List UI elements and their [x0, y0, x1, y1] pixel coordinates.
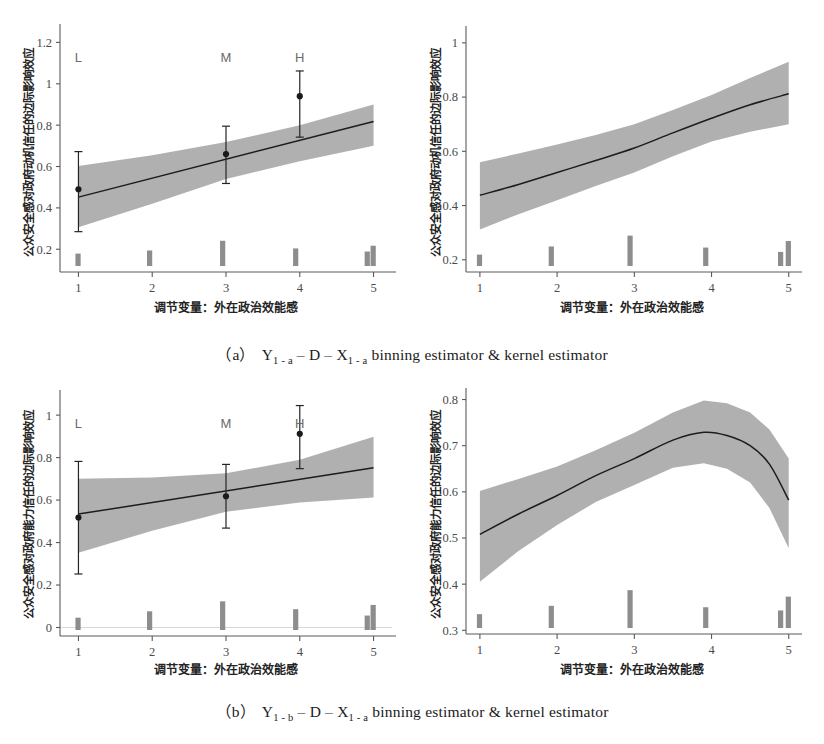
y-tick-label: 0.6	[442, 145, 458, 159]
caption-b-tail: binning estimator & kernel estimator	[368, 703, 608, 720]
x-axis-title: 调节变量：外在政治效能感	[154, 662, 298, 677]
y-tick-label: 0.2	[36, 243, 52, 257]
x-tick-label: 2	[554, 281, 560, 295]
rug-bar	[147, 611, 152, 630]
x-tick-label: 5	[370, 281, 376, 295]
x-axis-title: 调节变量：外在政治效能感	[560, 662, 704, 677]
caption-b-dash1: –	[294, 703, 310, 720]
x-axis-title: 调节变量：外在政治效能感	[154, 300, 298, 315]
y-tick-label: 0.5	[442, 531, 458, 545]
caption-b-d: D	[310, 703, 321, 720]
y-tick-label: 0.8	[442, 393, 458, 407]
caption-a-y-sub: 1 - a	[273, 355, 293, 366]
rug-bar	[477, 255, 482, 266]
y-tick-label: 1.2	[36, 36, 52, 50]
point-estimate-marker	[223, 151, 229, 157]
caption-b-prefix: （b）	[216, 703, 256, 720]
chart-panel-b-binning: LMH00.20.40.60.8112345调节变量：外在政治效能感公众安全感对…	[0, 374, 412, 692]
caption-a-prefix: （a）	[216, 346, 255, 363]
x-tick-label: 4	[297, 281, 304, 295]
chart-panel-a-binning: LMH0.20.40.60.811.212345调节变量：外在政治效能感公众安全…	[0, 0, 412, 336]
caption-b-x-sub: 1 - a	[349, 712, 369, 723]
rug-bar	[778, 252, 783, 266]
rug-bar	[293, 609, 298, 630]
x-tick-label: 3	[631, 281, 637, 295]
point-estimate-marker	[223, 493, 229, 499]
x-tick-label: 5	[786, 281, 792, 295]
x-tick-label: 4	[708, 281, 715, 295]
y-tick-label: 1	[452, 36, 458, 50]
x-tick-label: 2	[554, 643, 560, 657]
y-tick-label: 0.2	[442, 253, 458, 267]
rug-bar	[75, 618, 80, 630]
y-tick-label: 0.6	[442, 485, 458, 499]
bin-label-h: H	[295, 50, 304, 65]
point-estimate-marker	[297, 431, 303, 437]
chart-panel-a-kernel: 0.20.40.60.8112345调节变量：外在政治效能感公众安全感对政府动机…	[412, 0, 824, 336]
y-axis-title: 公众安全感对政府动机信任的边际影响效应	[22, 47, 36, 257]
x-tick-label: 2	[149, 281, 155, 295]
rug-bar	[365, 616, 370, 630]
x-tick-label: 1	[477, 281, 483, 295]
x-tick-label: 3	[631, 643, 637, 657]
caption-b-y: Y	[262, 703, 273, 720]
confidence-band	[480, 62, 789, 230]
y-tick-label: 0.8	[36, 451, 52, 465]
rug-bar	[627, 590, 632, 628]
panel-b-kernel: 0.30.40.50.60.70.812345调节变量：外在政治效能感公众安全感…	[412, 374, 824, 692]
x-tick-label: 5	[786, 643, 792, 657]
rug-bar	[786, 597, 791, 628]
rug-bar	[293, 248, 298, 266]
rug-bar	[703, 607, 708, 628]
y-tick-label: 0	[46, 621, 52, 635]
bin-label-m: M	[221, 416, 232, 431]
y-tick-label: 0.4	[36, 536, 52, 550]
rug-bar	[371, 605, 376, 630]
y-tick-label: 0.2	[36, 578, 52, 592]
caption-a-y: Y	[262, 346, 273, 363]
x-tick-label: 1	[75, 281, 81, 295]
panel-row-b: LMH00.20.40.60.8112345调节变量：外在政治效能感公众安全感对…	[0, 374, 824, 692]
x-axis-title: 调节变量：外在政治效能感	[560, 300, 704, 315]
chart-panel-b-kernel: 0.30.40.50.60.70.812345调节变量：外在政治效能感公众安全感…	[412, 374, 824, 692]
y-tick-label: 1	[46, 409, 52, 423]
y-tick-label: 1	[46, 77, 52, 91]
caption-a-dash1: –	[293, 346, 309, 363]
rug-bar	[371, 246, 376, 266]
figure-root: LMH0.20.40.60.811.212345调节变量：外在政治效能感公众安全…	[0, 0, 824, 744]
caption-a-x: X	[336, 346, 347, 363]
bin-label-h: H	[295, 416, 304, 431]
rug-bar	[627, 236, 632, 266]
bin-label-l: L	[75, 416, 82, 431]
caption-b-y-sub: 1 - b	[273, 712, 293, 723]
rug-bar	[365, 252, 370, 266]
y-tick-label: 0.3	[442, 624, 458, 638]
y-tick-label: 0.8	[36, 119, 52, 133]
rug-bar	[778, 610, 783, 628]
y-tick-label: 0.6	[36, 160, 52, 174]
confidence-band	[480, 400, 789, 581]
panel-row-a: LMH0.20.40.60.811.212345调节变量：外在政治效能感公众安全…	[0, 0, 824, 336]
x-tick-label: 4	[297, 645, 304, 659]
panel-a-binning: LMH0.20.40.60.811.212345调节变量：外在政治效能感公众安全…	[0, 0, 412, 336]
y-tick-label: 0.6	[36, 493, 52, 507]
rug-bar	[75, 254, 80, 266]
caption-b-x: X	[337, 703, 348, 720]
rug-bar	[220, 601, 225, 630]
x-tick-label: 5	[370, 645, 376, 659]
rug-bar	[549, 606, 554, 628]
y-tick-label: 0.4	[442, 578, 458, 592]
x-tick-label: 3	[223, 281, 229, 295]
y-tick-label: 0.4	[442, 199, 458, 213]
bin-label-l: L	[75, 50, 82, 65]
y-tick-label: 0.8	[442, 90, 458, 104]
y-axis-title: 公众安全感对政府能力信任的边际影响效应	[429, 409, 443, 619]
rug-bar	[477, 614, 482, 628]
caption-a: （a）Y1 - a – D – X1 - a binning estimator…	[0, 336, 824, 374]
x-tick-label: 1	[75, 645, 81, 659]
y-axis-title: 公众安全感对政府能力信任的边际影响效应	[22, 409, 36, 619]
caption-b: （b）Y1 - b – D – X1 - a binning estimator…	[0, 692, 824, 732]
bin-label-m: M	[221, 50, 232, 65]
caption-a-dash2: –	[320, 346, 336, 363]
caption-a-tail: binning estimator & kernel estimator	[367, 346, 607, 363]
